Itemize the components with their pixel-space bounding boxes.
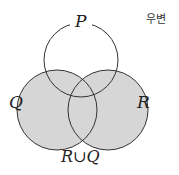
shaded-region-r-union-q [17,70,148,150]
set-label-q: Q [9,94,23,111]
set-label-p: P [75,13,86,30]
set-label-r: R [137,94,150,111]
venn-diagram: P Q R R∪Q 우변 [0,0,179,175]
side-label: 우변 [146,14,166,25]
diagram-caption: R∪Q [61,149,100,165]
